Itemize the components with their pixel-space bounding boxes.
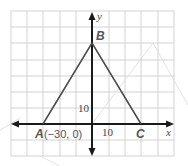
x-tick-label: 10 xyxy=(102,126,114,138)
y-axis-up-arrow-icon xyxy=(89,12,96,20)
y-axis-down-arrow-icon xyxy=(89,148,96,156)
point-c-label: C xyxy=(136,127,145,141)
point-a-label: A xyxy=(34,127,44,141)
point-b-label: B xyxy=(96,29,105,43)
y-axis-label: y xyxy=(96,10,102,22)
x-axis-label: x xyxy=(165,126,171,138)
coordinate-plane: y x 10 10 B C A (−30, 0) xyxy=(0,0,188,166)
y-axis xyxy=(89,12,96,156)
point-a-coordinates: (−30, 0) xyxy=(44,128,82,140)
watermark xyxy=(0,43,188,166)
y-tick-label: 10 xyxy=(78,102,90,114)
